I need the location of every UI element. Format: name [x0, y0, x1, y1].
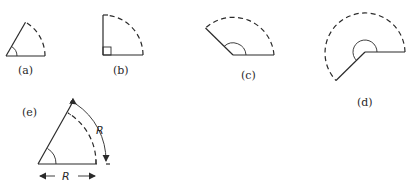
terminal-ray: [206, 28, 234, 55]
dashed-arc: [26, 22, 46, 56]
right-angle-marker: [103, 47, 111, 55]
panel-label: (e): [22, 106, 37, 119]
angle-marker-arc: [48, 149, 57, 165]
angle-marker-arc: [12, 47, 18, 57]
panel-b: (b): [103, 15, 143, 77]
arc-end-tick: [68, 113, 71, 115]
panel-label: (b): [113, 64, 129, 77]
outer-tick: [70, 103, 72, 107]
angle-marker-arc: [353, 40, 377, 60]
panel-label: (d): [357, 96, 373, 109]
dashed-arc: [68, 113, 96, 164]
panel-d: (d): [325, 13, 405, 109]
dashed-arc: [108, 15, 143, 55]
panel-label: (a): [18, 64, 33, 77]
radius-label: R: [62, 170, 70, 181]
panel-a: (a): [6, 22, 45, 77]
arc-length-label: R: [96, 124, 104, 137]
dashed-arc: [325, 13, 405, 81]
dashed-arc: [206, 17, 275, 55]
panel-label: (c): [241, 69, 256, 82]
panel-e: (e) R R: [22, 103, 110, 181]
panel-c: (c): [206, 17, 275, 82]
angle-diagram: (a) (b) (c) (d) (e) R: [0, 0, 412, 181]
terminal-ray: [336, 52, 365, 81]
